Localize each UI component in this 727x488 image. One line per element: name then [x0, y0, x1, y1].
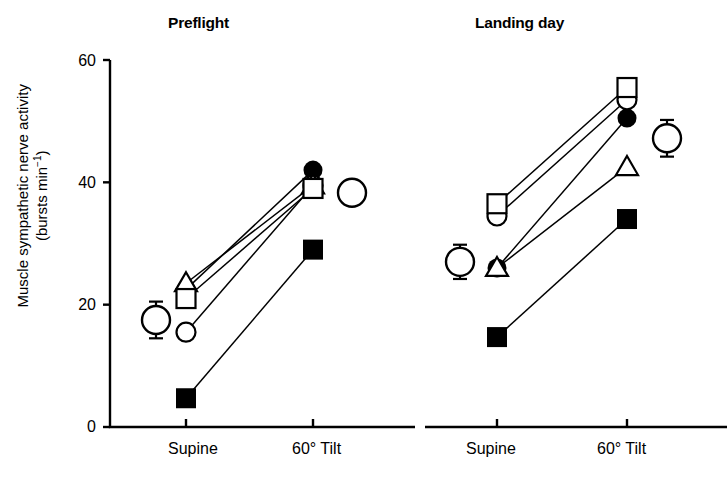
mean-point-preflight-supine [142, 302, 170, 339]
data-point-preflight-tilt-open-square [304, 179, 323, 198]
series-line-landing-day-1 [497, 100, 627, 216]
data-point-preflight-tilt-filled-square [303, 240, 323, 260]
series-line-landing-day-4 [497, 219, 627, 337]
series-line-landing-day-0 [497, 118, 627, 268]
mean-marker-circle [446, 248, 474, 276]
data-point-landing-day-supine-open-square [488, 194, 507, 213]
series-line-preflight-2 [186, 185, 313, 283]
data-point-landing-day-tilt-filled-circle [618, 109, 637, 128]
data-point-preflight-supine-filled-square [176, 388, 196, 408]
data-point-preflight-supine-open-circle [177, 323, 196, 342]
data-point-landing-day-tilt-open-square [618, 78, 637, 97]
plot-area [0, 0, 727, 488]
data-point-landing-day-tilt-filled-square [617, 209, 637, 229]
mean-marker-circle [142, 306, 170, 334]
series-line-landing-day-2 [497, 167, 627, 268]
data-point-preflight-supine-open-square [177, 289, 196, 308]
data-point-landing-day-supine-filled-square [487, 327, 507, 347]
mean-marker-circle [338, 179, 366, 207]
mean-marker-circle [653, 124, 681, 152]
series-line-landing-day-3 [497, 88, 627, 204]
mean-point-landing-day-supine [446, 245, 474, 279]
data-point-landing-day-tilt-open-triangle [616, 156, 638, 175]
series-line-preflight-1 [186, 185, 313, 332]
mean-point-landing-day-tilt [653, 120, 681, 157]
series-line-preflight-3 [186, 188, 313, 298]
mean-point-preflight-tilt [338, 179, 366, 207]
figure-container: Preflight Landing day Muscle sympathetic… [0, 0, 727, 488]
